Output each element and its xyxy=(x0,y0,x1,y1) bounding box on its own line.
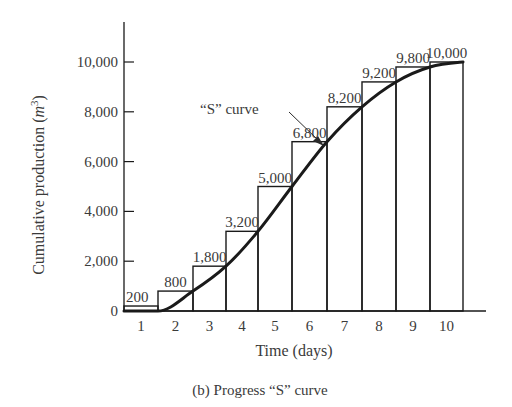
bar-day-9 xyxy=(396,67,430,311)
y-axis-title: Cumulative production (m3) xyxy=(28,95,48,275)
x-tick-label: 8 xyxy=(375,318,383,334)
value-label: 9,800 xyxy=(396,50,430,66)
s-curve-chart: 02,0004,0006,0008,00010,000 12345678910 … xyxy=(0,0,512,407)
x-axis-title: Time (days) xyxy=(255,342,332,360)
x-tick-label: 7 xyxy=(341,318,349,334)
value-label: 9,200 xyxy=(362,65,396,81)
value-label: 800 xyxy=(164,274,187,290)
x-ticks-group: 12345678910 xyxy=(137,318,454,334)
y-ticks-group: 02,0004,0006,0008,00010,000 xyxy=(77,54,134,319)
y-tick-label: 6,000 xyxy=(84,154,118,170)
x-tick-label: 3 xyxy=(206,318,214,334)
value-label: 6,800 xyxy=(293,125,327,141)
y-tick-label: 8,000 xyxy=(84,104,118,120)
bar-day-4 xyxy=(226,231,258,311)
figure-caption: (b) Progress “S” curve xyxy=(192,382,328,399)
value-label: 3,200 xyxy=(225,214,259,230)
value-label: 8,200 xyxy=(328,90,362,106)
value-label: 1,800 xyxy=(193,249,227,265)
bar-day-5 xyxy=(258,187,292,312)
x-tick-label: 1 xyxy=(137,318,145,334)
value-label: 5,000 xyxy=(258,170,292,186)
y-tick-label: 0 xyxy=(111,303,119,319)
x-tick-label: 9 xyxy=(409,318,417,334)
y-tick-label: 10,000 xyxy=(77,54,118,70)
x-tick-label: 10 xyxy=(439,318,454,334)
y-tick-label: 4,000 xyxy=(84,203,118,219)
bar-day-8 xyxy=(362,82,396,311)
x-tick-label: 4 xyxy=(238,318,246,334)
bar-day-10 xyxy=(430,62,463,311)
value-label: 10,000 xyxy=(426,45,467,61)
x-tick-label: 5 xyxy=(271,318,279,334)
value-labels-group: 2008001,8003,2005,0006,8008,2009,2009,80… xyxy=(126,45,467,305)
s-curve-annotation-label: “S” curve xyxy=(200,101,259,117)
value-label: 200 xyxy=(126,289,149,305)
x-tick-label: 6 xyxy=(306,318,314,334)
x-tick-label: 2 xyxy=(172,318,180,334)
bar-day-6 xyxy=(292,142,327,311)
y-tick-label: 2,000 xyxy=(84,253,118,269)
